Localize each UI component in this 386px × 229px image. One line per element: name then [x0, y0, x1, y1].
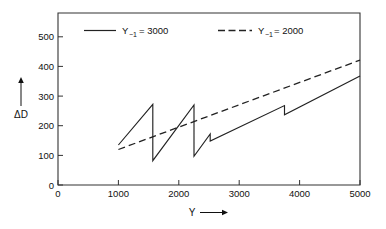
chart-svg: 0 100 200 300 400 500 0 1000 2000 3000 4…	[0, 0, 386, 229]
legend-label-0-sub: −1	[129, 31, 137, 38]
y-tick-label-0: 0	[49, 180, 54, 191]
x-axis-ticks	[58, 180, 360, 185]
x-axis-title: Y	[189, 207, 196, 218]
y-tick-label-400: 400	[38, 61, 54, 72]
y-axis-ticks	[58, 37, 63, 185]
x-axis-tick-labels: 0 1000 2000 3000 4000 5000	[55, 188, 370, 199]
legend-label-0-main: Y	[122, 25, 129, 36]
x-tick-label-0: 0	[55, 188, 60, 199]
y-axis-title: ΔD	[14, 109, 28, 120]
x-tick-label-3000: 3000	[229, 188, 250, 199]
series-line-solid	[118, 76, 360, 161]
x-tick-label-5000: 5000	[349, 188, 370, 199]
y-axis-tick-labels: 0 100 200 300 400 500	[38, 31, 54, 190]
x-axis-arrow-head-icon	[222, 210, 228, 216]
x-tick-label-2000: 2000	[168, 188, 189, 199]
series-solid-group	[118, 76, 360, 161]
y-tick-label-200: 200	[38, 120, 54, 131]
legend-label-0-value: = 3000	[139, 25, 168, 36]
series-dashed-group	[118, 60, 360, 149]
y-axis-title-group: ΔD	[14, 77, 28, 120]
legend-label-1-sub: −1	[265, 31, 273, 38]
chart-container: 0 100 200 300 400 500 0 1000 2000 3000 4…	[0, 0, 386, 229]
y-tick-label-100: 100	[38, 150, 54, 161]
x-axis-title-group: Y	[189, 207, 228, 218]
legend: Y −1 = 3000 Y −1 = 2000	[84, 25, 303, 38]
legend-item-0[interactable]: Y −1 = 3000	[84, 25, 168, 38]
legend-label-1-value: = 2000	[274, 25, 303, 36]
series-line-dashed	[118, 60, 360, 149]
legend-item-1[interactable]: Y −1 = 2000	[218, 25, 303, 38]
x-tick-label-4000: 4000	[289, 188, 310, 199]
legend-label-1-main: Y	[258, 25, 265, 36]
y-tick-label-300: 300	[38, 91, 54, 102]
x-tick-label-1000: 1000	[108, 188, 129, 199]
y-axis-arrow-head-icon	[18, 77, 24, 83]
y-tick-label-500: 500	[38, 31, 54, 42]
